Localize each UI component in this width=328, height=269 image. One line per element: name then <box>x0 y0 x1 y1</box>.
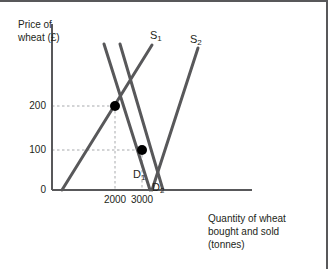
curve-label-d2: D2 <box>152 181 164 193</box>
curve-label-s2: S2 <box>190 33 202 45</box>
equilibrium-point-2 <box>137 145 147 155</box>
curve-label-d2-text: D <box>152 181 160 193</box>
curve-label-s2-sub: 2 <box>197 38 201 47</box>
curve-label-s1-sub: 1 <box>157 34 161 43</box>
x-tick-3000: 3000 <box>122 194 162 205</box>
curve-label-d1-sub: 1 <box>141 173 145 182</box>
equilibrium-point-1 <box>110 101 120 111</box>
axes <box>52 24 252 190</box>
y-tick-100: 100 <box>10 144 46 155</box>
x-axis-title: Quantity of wheat bought and sold (tonne… <box>208 212 286 251</box>
figure-container: Price of wheat (£) Quantity of wheat bou… <box>0 0 328 269</box>
curve-label-d2-sub: 2 <box>160 186 164 195</box>
curve-label-d1-text: D <box>133 168 141 180</box>
curve-label-d1: D1 <box>133 168 145 180</box>
y-axis-title: Price of wheat (£) <box>18 18 60 44</box>
y-tick-200: 200 <box>10 100 46 111</box>
y-tick-0: 0 <box>10 184 46 195</box>
supply-curve-s2 <box>152 48 198 190</box>
curve-label-s1: S1 <box>150 29 162 41</box>
